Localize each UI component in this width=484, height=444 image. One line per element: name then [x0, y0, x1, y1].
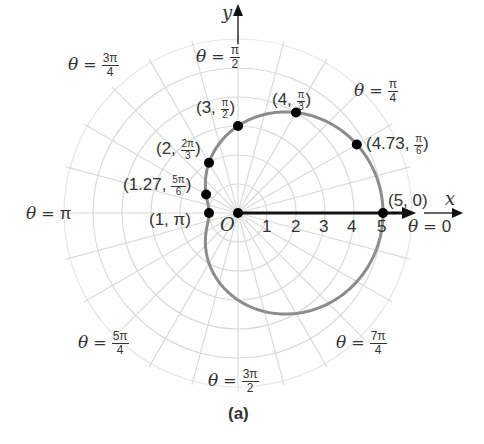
tick-label-2: 2	[291, 218, 300, 235]
x-axis-arrow-icon	[452, 208, 463, 218]
data-point	[201, 190, 211, 200]
y-axis-label: y	[222, 4, 232, 22]
tick-label-4: 4	[347, 218, 356, 235]
point-label-5-0: (5, 0)	[388, 192, 428, 209]
tick-label-5: 5	[377, 218, 386, 235]
data-point	[204, 208, 214, 218]
origin-label: O	[220, 216, 235, 234]
angle-label-3pi-over-4: θ=3π4	[68, 52, 119, 78]
angle-label-7pi-over-4: θ=7π4	[336, 330, 387, 356]
point-label-2-2pi-3: (2, 2π3)	[156, 139, 201, 161]
angle-label-pi-over-2: θ=π2	[196, 44, 240, 70]
grid-spoke	[238, 213, 364, 339]
data-point	[352, 139, 362, 149]
point-label-4.73-pi-6: (4.73, π6)	[366, 134, 429, 156]
grid-spoke	[192, 213, 238, 385]
data-point	[204, 158, 214, 168]
point-label-3-pi-2: (3, π2)	[196, 98, 235, 120]
point-label-1.27-5pi-6: (1.27, 5π6)	[123, 175, 191, 197]
tick-label-1: 1	[262, 218, 271, 235]
angle-label-zero: θ=0	[408, 218, 451, 235]
grid-spoke	[238, 213, 327, 367]
point-label-1-pi: (1, π)	[149, 211, 191, 228]
point-label-4-pi-3: (4, π3)	[272, 90, 311, 112]
angle-label-pi-over-4: θ=π4	[354, 78, 398, 104]
figure-caption: (a)	[228, 405, 249, 422]
tick-label-3: 3	[319, 218, 328, 235]
angle-label-3pi-over-2: θ=3π2	[208, 368, 259, 394]
grid-spoke	[238, 41, 284, 213]
y-axis-arrow-icon	[233, 4, 243, 16]
data-point	[233, 121, 243, 131]
grid-spoke	[84, 124, 238, 213]
angle-label-5pi-over-4: θ=5π4	[78, 330, 129, 356]
x-axis-label: x	[445, 190, 455, 208]
axes	[233, 4, 463, 219]
grid-spoke	[238, 213, 284, 385]
angle-label-pi: θ=π	[26, 205, 71, 222]
grid-spoke	[238, 59, 327, 213]
